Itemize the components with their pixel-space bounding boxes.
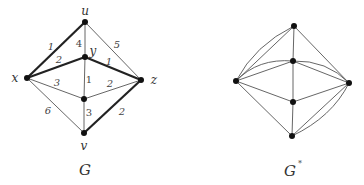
vertex-label-v: v [81,139,88,153]
vertex-top [291,23,297,29]
vertex-label-x: x [12,71,19,85]
weight-m-v: 3 [86,107,92,118]
edge-left-midlow [236,81,293,102]
weight-m-z: 2 [106,78,113,89]
vertex-label-u: u [81,4,89,18]
edge-x-u [27,22,85,78]
edge-left-midtop-straight [236,61,293,81]
caption-gstar-superscript: * [298,159,302,168]
edge-y-z [85,57,141,80]
vertex-m [81,96,87,102]
edge-top-midtop [293,26,294,61]
edge-right-top [294,26,349,83]
weight-y-m: 1 [86,74,92,85]
edge-midlow-bottom [292,102,293,136]
edge-left-bottom [236,81,292,136]
weight-x-m: 3 [54,77,60,88]
weight-x-v: 6 [45,105,52,116]
vertex-v [81,130,87,136]
edge-right-midtop-straight [293,61,349,83]
vertex-bottom [289,133,295,139]
vertex-midlow [290,99,296,105]
vertex-label-z: z [150,73,158,87]
vertex-y [82,54,88,60]
graph-g: u y x z v 1 4 5 2 1 3 1 2 6 3 2 G [12,4,158,179]
diagram-canvas: u y x z v 1 4 5 2 1 3 1 2 6 3 2 G [0,0,364,185]
weight-v-z: 2 [118,106,125,117]
caption-g: G [79,161,91,179]
vertex-x [24,75,30,81]
vertex-z [138,77,144,83]
weight-x-y: 2 [55,54,62,65]
weight-x-u: 1 [48,41,54,52]
graph-gstar: G * [233,23,352,180]
weight-u-z: 5 [114,39,120,50]
vertex-midtop [290,58,296,64]
edge-right-bottom-straight [292,83,349,136]
edge-right-midlow [293,83,349,102]
weight-y-z: 1 [106,56,112,67]
vertex-right [346,80,352,86]
vertex-label-y: y [89,44,97,58]
vertex-left [233,78,239,84]
caption-gstar: G [284,162,296,180]
vertex-u [82,19,88,25]
weight-u-y: 4 [76,38,82,49]
